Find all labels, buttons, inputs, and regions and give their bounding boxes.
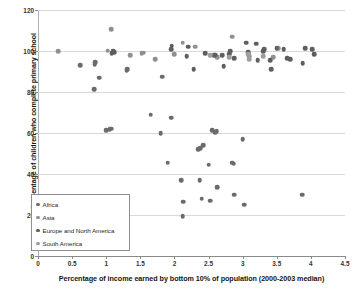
legend-marker-icon xyxy=(36,203,40,207)
data-point xyxy=(180,41,185,46)
data-point xyxy=(165,160,170,165)
x-tick-mark xyxy=(311,256,312,259)
data-point xyxy=(128,53,133,58)
x-tick-mark xyxy=(106,256,107,259)
data-point xyxy=(215,185,220,190)
data-point xyxy=(159,131,164,136)
x-axis-title: Percentage of income earned by bottom 10… xyxy=(38,274,345,283)
legend-marker-icon xyxy=(36,216,40,220)
gridline xyxy=(38,51,345,52)
data-point xyxy=(172,52,177,57)
data-point xyxy=(288,57,293,62)
gridline xyxy=(38,133,345,134)
x-tick-mark xyxy=(38,256,39,259)
data-point xyxy=(228,49,233,54)
data-point xyxy=(281,47,286,52)
data-point xyxy=(208,53,213,58)
x-tick-mark xyxy=(209,256,210,259)
legend: AfricaAsiaEurope and North AmericaSouth … xyxy=(31,194,130,251)
gridline xyxy=(38,174,345,175)
x-tick-label: 1.5 xyxy=(136,260,145,267)
data-point xyxy=(148,112,153,117)
data-point xyxy=(244,41,249,46)
x-tick-label: 2 xyxy=(173,260,177,267)
data-point xyxy=(56,49,61,54)
y-tick-mark xyxy=(35,133,38,134)
data-point xyxy=(153,57,158,62)
y-tick-mark xyxy=(35,174,38,175)
x-tick-mark xyxy=(277,256,278,259)
data-point xyxy=(230,34,235,39)
x-tick-label: 1 xyxy=(104,260,108,267)
data-point xyxy=(240,137,245,142)
data-point xyxy=(206,162,211,167)
y-tick-label: 100 xyxy=(23,48,34,55)
gridline xyxy=(38,10,345,11)
data-point xyxy=(300,192,305,197)
legend-item: South America xyxy=(36,237,125,250)
data-point xyxy=(232,192,237,197)
x-tick-label: 2.5 xyxy=(204,260,213,267)
data-point xyxy=(312,52,317,57)
x-tick-label: 4.5 xyxy=(341,260,350,267)
data-point xyxy=(232,161,237,166)
y-tick-mark xyxy=(35,51,38,52)
legend-item: Africa xyxy=(36,198,125,211)
legend-label: Europe and North America xyxy=(43,227,115,234)
data-point xyxy=(232,56,237,61)
data-point xyxy=(269,67,274,72)
x-tick-label: 0.5 xyxy=(68,260,77,267)
data-point xyxy=(221,64,226,69)
data-point xyxy=(141,50,146,55)
x-axis-line xyxy=(38,256,345,257)
data-point xyxy=(78,63,83,68)
data-point xyxy=(181,199,186,204)
data-point xyxy=(246,52,251,57)
legend-label: Asia xyxy=(43,214,55,221)
x-tick-mark xyxy=(72,256,73,259)
data-point xyxy=(208,198,213,203)
data-point xyxy=(261,54,266,59)
data-point xyxy=(160,74,165,79)
data-point xyxy=(169,44,174,49)
data-point xyxy=(191,67,196,72)
data-point xyxy=(184,54,189,59)
y-tick-mark xyxy=(35,10,38,11)
x-tick-label: 4 xyxy=(309,260,313,267)
data-point xyxy=(254,42,259,47)
data-point xyxy=(242,202,247,207)
data-point xyxy=(303,46,308,51)
data-point xyxy=(193,45,198,50)
data-point xyxy=(109,127,114,132)
scatter-chart: Percentage of children who complete prim… xyxy=(0,0,355,292)
data-point xyxy=(179,178,184,183)
data-point xyxy=(213,52,218,57)
data-point xyxy=(169,115,174,120)
data-point xyxy=(300,61,305,66)
x-tick-mark xyxy=(243,256,244,259)
y-tick-label: 80 xyxy=(27,89,34,96)
data-point xyxy=(227,55,232,60)
data-point xyxy=(125,67,130,72)
data-point xyxy=(109,27,114,32)
x-tick-mark xyxy=(174,256,175,259)
data-point xyxy=(247,57,252,62)
y-tick-label: 60 xyxy=(27,130,34,137)
data-point xyxy=(262,47,267,52)
data-point xyxy=(197,178,202,183)
data-point xyxy=(201,143,206,148)
data-point xyxy=(180,214,185,219)
x-tick-mark xyxy=(140,256,141,259)
y-tick-label: 40 xyxy=(27,171,34,178)
data-point xyxy=(97,75,102,80)
data-point xyxy=(112,50,117,55)
data-point xyxy=(268,58,273,63)
y-tick-label: 120 xyxy=(23,7,34,14)
x-tick-label: 3.5 xyxy=(272,260,281,267)
data-point xyxy=(186,45,191,50)
legend-label: South America xyxy=(43,240,83,247)
data-point xyxy=(255,58,260,63)
legend-item: Asia xyxy=(36,211,125,224)
gridline xyxy=(38,92,345,93)
data-point xyxy=(214,129,219,134)
